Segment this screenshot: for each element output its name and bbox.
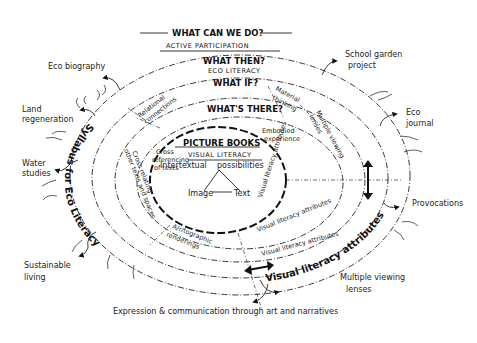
footer-caption: Expression & communication through art a… (113, 307, 338, 316)
core-subtitle: VISUAL LITERACY (188, 151, 251, 159)
header-subtitle: ACTIVE PARTICIPATION (166, 42, 249, 50)
label-sustainable-living-2: living (24, 273, 46, 282)
label-sustainable-living-1: Sustainable (24, 261, 71, 270)
ring-labels: WHAT THEN? ECO LITERACY WHAT IF? WHAT'S … (203, 56, 283, 114)
core-title: PICTURE BOOKS (183, 138, 260, 148)
eco-literacy-diagram: WHAT CAN WE DO? ACTIVE PARTICIPATION WHA… (0, 0, 477, 343)
triangle-text: Text (233, 189, 250, 198)
ring-what-if-label: WHAT IF? (213, 78, 258, 88)
label-land-regeneration-1: Land (22, 105, 42, 114)
cross-referencing-3: of texts (154, 164, 179, 172)
label-school-garden-2: project (348, 61, 376, 70)
header-question: WHAT CAN WE DO? (172, 28, 263, 38)
ring-what-then-subtitle: ECO LITERACY (208, 67, 260, 75)
ring-what-then-label: WHAT THEN? (203, 56, 265, 66)
label-eco-journal-2: journal (405, 119, 434, 128)
ring-whats-there-label: WHAT'S THERE? (207, 104, 283, 114)
core-possibilities: possibilities (217, 161, 264, 170)
label-multiple-viewing-2: lenses (346, 285, 371, 294)
multiple-viewing-inner-1: Multiple viewing (314, 109, 346, 159)
cross-referencing-1: Cross (156, 148, 174, 156)
cross-referencing-2: referencing (152, 156, 189, 164)
label-multiple-viewing-1: Multiple viewing (340, 273, 405, 282)
label-land-regeneration-2: regeneration (22, 115, 74, 124)
label-eco-biography: Eco biography (48, 62, 106, 71)
label-eco-journal-1: Eco (406, 108, 420, 117)
vl-attributes-middle: Visual literacy attributes (256, 196, 333, 233)
header: WHAT CAN WE DO? ACTIVE PARTICIPATION (140, 28, 292, 51)
label-water-studies-1: Water (22, 159, 46, 168)
label-school-garden-1: School garden (345, 50, 402, 59)
outer-ring (70, 55, 410, 295)
syllabus-eco-literacy-label: Syllabus for Eco Literacy (63, 122, 103, 249)
label-provocations: Provocations (412, 199, 463, 208)
label-water-studies-2: studies (22, 169, 51, 178)
triangle-image: Image (188, 189, 213, 198)
